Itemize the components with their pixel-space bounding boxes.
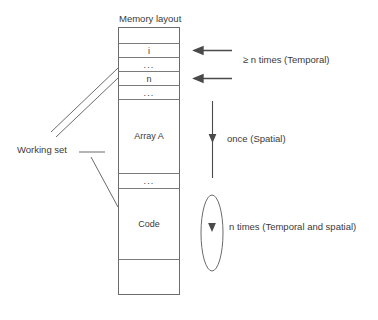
memory-row-label-array-a: Array A (118, 132, 180, 141)
temporal-arrow-1-head (194, 47, 203, 54)
spatial-arrow-head (209, 134, 217, 143)
diagram-vector-layer (0, 0, 378, 320)
memory-row-label-code: Code (118, 220, 180, 229)
temporal-spatial-loop-ellipse (201, 195, 223, 271)
working-set-leader-group (51, 68, 118, 207)
annotation-label-spatial: once (Spatial) (227, 134, 286, 144)
spatial-arrow-group (209, 101, 217, 178)
working-set-branch-upper-1 (51, 68, 118, 132)
memory-row-label-i: i (118, 47, 180, 56)
temporal-spatial-loop-group (201, 195, 223, 271)
temporal-spatial-loop-arrowhead (208, 223, 216, 232)
memory-row-label-dots-2: ... (118, 89, 180, 98)
temporal-arrow-2-head (194, 75, 203, 82)
memory-layout-diagram: Memory layout i ... n ... Array A ... Co… (0, 0, 378, 320)
temporal-arrow-group (194, 47, 232, 82)
working-set-branch-lower (91, 157, 118, 207)
memory-row-label-n: n (118, 75, 180, 84)
annotation-label-temporal-and-spatial: n times (Temporal and spatial) (229, 222, 356, 232)
memory-row-label-dots-1: ... (118, 61, 180, 70)
annotation-label-temporal: ≥ n times (Temporal) (243, 55, 330, 65)
memory-layout-title: Memory layout (119, 14, 181, 24)
working-set-label: Working set (17, 145, 67, 155)
memory-row-label-dots-3: ... (118, 177, 180, 186)
working-set-branch-upper-2 (56, 78, 118, 137)
